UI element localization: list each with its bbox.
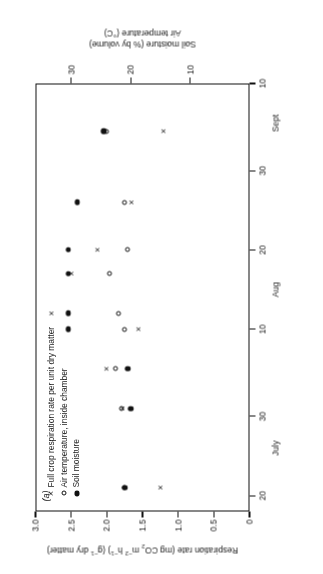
y-axis-tick-left — [107, 512, 108, 518]
x-axis-tick — [250, 416, 256, 417]
y-axis-title-left: Respiration rate (mg CO2 m−2 h−1) (g−1 d… — [36, 544, 250, 558]
y-axis-tick-label-right: 30 — [67, 65, 77, 75]
cross-marker: × — [160, 129, 169, 134]
x-axis-tick-label: 30 — [258, 412, 268, 422]
x-axis-tick — [250, 83, 256, 84]
y-axis-tick-label-left: 0 — [245, 520, 255, 546]
legend: × Full crop respiration rate per unit dr… — [46, 327, 84, 500]
cross-marker: × — [47, 311, 56, 316]
legend-item-soil-moisture: Soil moisture — [71, 327, 84, 500]
x-axis-tick-label: 10 — [258, 325, 268, 335]
y-axis-tick-label-right: 20 — [126, 65, 136, 75]
x-axis-tick — [250, 171, 256, 172]
x-axis-tick-label: 30 — [258, 166, 268, 176]
x-axis-tick-label: 10 — [258, 79, 268, 89]
y-axis-tick-left — [142, 512, 143, 518]
x-axis-month-label: Aug — [271, 282, 281, 297]
cross-marker: × — [156, 486, 165, 491]
figure-canvas: (a) × Full crop respiration rate per uni… — [0, 0, 323, 574]
legend-label: Soil moisture — [71, 440, 84, 488]
y-axis-tick-label-left: 3.0 — [31, 520, 41, 546]
filled-circle-marker-icon — [75, 488, 80, 500]
cross-marker: × — [135, 327, 144, 332]
legend-item-air-temperature: Air temperature, inside chamber — [59, 327, 72, 500]
y-axis-tick-label-left: 1.0 — [174, 520, 184, 546]
y-axis-title-right-soil-moisture: Soil moisture (% by volume) — [36, 40, 250, 50]
y-axis-tick-left — [249, 512, 250, 518]
cross-marker-icon: × — [48, 488, 57, 500]
legend-label: Air temperature, inside chamber — [59, 369, 72, 488]
y-axis-tick-left — [178, 512, 179, 518]
y-axis-tick-label-left: 1.5 — [138, 520, 148, 546]
x-axis-month-label: July — [271, 441, 281, 456]
y-axis-tick-left — [214, 512, 215, 518]
cross-marker: × — [103, 367, 112, 372]
legend-label: Full crop respiration rate per unit dry … — [46, 327, 59, 488]
y-axis-title-right-air-temperature: Air temperature (°C) — [36, 29, 250, 39]
figure-rotation-wrapper: (a) × Full crop respiration rate per uni… — [0, 0, 323, 574]
open-circle-marker-icon — [62, 488, 67, 500]
y-axis-tick-left — [71, 512, 72, 518]
y-axis-tick-label-left: 2.0 — [102, 520, 112, 546]
x-axis-tick — [250, 250, 256, 251]
legend-item-respiration: × Full crop respiration rate per unit dr… — [46, 327, 59, 500]
y-axis-tick-label-right: 10 — [186, 65, 196, 75]
cross-marker: × — [94, 248, 103, 253]
cross-marker: × — [128, 200, 137, 205]
x-axis-tick — [250, 329, 256, 330]
y-axis-tick-left — [35, 512, 36, 518]
y-axis-tick-label-left: 0.5 — [209, 520, 219, 546]
x-axis-tick-label: 20 — [258, 491, 268, 501]
x-axis-tick-label: 20 — [258, 246, 268, 256]
x-axis-tick — [250, 496, 256, 497]
x-axis-month-label: Sept — [271, 115, 281, 133]
y-axis-tick-label-left: 2.5 — [67, 520, 77, 546]
